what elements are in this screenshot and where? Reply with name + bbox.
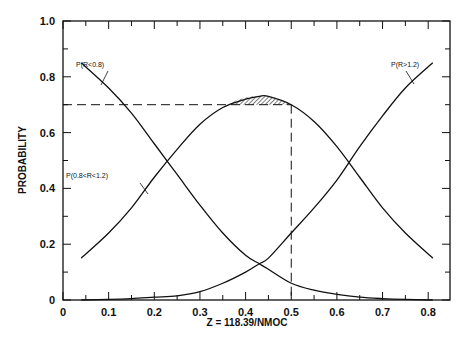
- arrow-p-mid: [140, 183, 148, 194]
- x-tick-label: 0: [60, 306, 66, 318]
- y-tick-label: 0.4: [40, 182, 56, 194]
- x-tick-label: 0.7: [375, 306, 390, 318]
- x-tick-label: 0.6: [329, 306, 344, 318]
- y-axis-title: PROBABILITY: [17, 126, 28, 194]
- x-tick-label: 0.2: [147, 306, 162, 318]
- y-tick-label: 0.2: [40, 238, 55, 250]
- annotation-p-low: P(R<0.8): [76, 61, 104, 69]
- hatched-region: [227, 96, 291, 105]
- probability-chart: 00.10.20.30.40.50.60.70.800.20.40.60.81.…: [0, 0, 473, 338]
- x-tick-label: 0.3: [192, 306, 207, 318]
- x-tick-label: 0.8: [421, 306, 436, 318]
- arrow-p-low: [101, 71, 108, 85]
- overlays: [63, 96, 291, 300]
- x-axis-title: Z = 118.39/NMOC: [207, 317, 288, 328]
- arrow-p-high: [406, 71, 414, 84]
- y-tick-label: 0.8: [40, 71, 55, 83]
- y-tick-label: 0.6: [40, 127, 55, 139]
- y-tick-label: 1.0: [40, 15, 55, 27]
- x-tick-label: 0.1: [101, 306, 116, 318]
- annotation-p-high: P(R>1.2): [391, 61, 419, 69]
- y-tick-label: 0: [49, 294, 55, 306]
- annotation-p-mid: P(0.8<R<1.2): [66, 172, 108, 180]
